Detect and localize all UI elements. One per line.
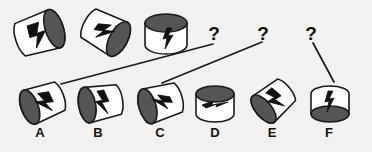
option-label-c: C xyxy=(151,126,169,139)
sequence-item-2 xyxy=(76,4,135,60)
option-label-b: B xyxy=(89,126,107,139)
option-a-shape[interactable] xyxy=(16,78,70,127)
unknown-slot-2: ? xyxy=(255,24,271,43)
cylinder-dark-face xyxy=(311,106,349,122)
cylinder-dark-face xyxy=(145,14,187,32)
unknown-slot-1: ? xyxy=(206,24,222,43)
option-d-shape[interactable] xyxy=(196,86,234,122)
unknown-slot-3: ? xyxy=(303,24,319,43)
puzzle-figure: ? ? ? A B C D E F xyxy=(0,0,372,152)
connector-a xyxy=(61,44,213,84)
cylinder-dark-face xyxy=(196,86,234,102)
sequence-item-3 xyxy=(145,14,187,54)
option-label-f: F xyxy=(320,126,338,139)
sequence-item-1 xyxy=(10,7,69,60)
option-label-e: E xyxy=(263,126,281,139)
option-label-d: D xyxy=(206,126,224,139)
option-c-shape[interactable] xyxy=(134,79,187,126)
option-e-shape[interactable] xyxy=(247,75,301,128)
option-f-shape[interactable] xyxy=(311,86,349,122)
option-b-shape[interactable] xyxy=(76,81,126,124)
connector-c xyxy=(313,43,334,82)
option-label-a: A xyxy=(31,126,49,139)
top-sequence-row xyxy=(10,4,187,60)
